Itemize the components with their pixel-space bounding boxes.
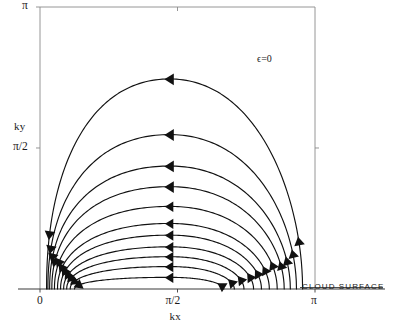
figure-container: π π/2 0 π/2 π ky kx ϵ=0 CLOUD SURFACE [0,0,403,324]
trajectory-curves [47,79,303,289]
right-foot-arrowhead [294,237,304,246]
apex-arrowhead [164,129,174,141]
y-tick-label-pi-half: π/2 [13,140,28,152]
apex-arrowhead [164,181,174,193]
apex-arrowhead [165,262,173,272]
apex-arrowhead [165,252,173,262]
right-foot-arrowhead [228,279,238,289]
apex-arrowhead [165,230,173,240]
cloud-surface-label: CLOUD SURFACE [302,282,384,291]
x-axis-label: kx [170,310,181,322]
y-tick-label-pi: π [22,0,28,11]
trajectory-plot [0,0,403,324]
trajectory-curve [47,79,303,289]
apex-arrowhead [165,273,173,283]
apex-arrowhead [165,242,173,252]
trajectory-curve [75,277,224,289]
apex-arrowhead [165,202,173,212]
x-tick-label-pi: π [311,294,317,306]
right-foot-arrowhead [238,276,248,286]
right-foot-arrowhead [289,249,299,259]
apex-arrowhead [164,161,174,173]
y-axis-label: ky [14,120,25,132]
x-tick-label-pi-half: π/2 [166,294,181,306]
flow-arrowheads [45,73,305,292]
epsilon-annotation: ϵ=0 [257,53,272,64]
apex-arrowhead [164,73,174,85]
right-foot-arrowhead [217,283,227,292]
x-tick-label-zero: 0 [37,294,43,306]
apex-arrowhead [165,219,173,229]
trajectory-curve [52,187,284,289]
